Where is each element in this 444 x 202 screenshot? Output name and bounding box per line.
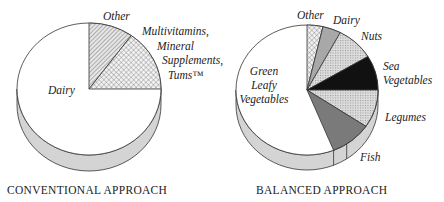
- caption-conventional: CONVENTIONAL APPROACH: [7, 184, 167, 196]
- label-other: Other: [103, 10, 130, 22]
- label-fish: Fish: [359, 151, 381, 163]
- label-leafy: Leafy: [250, 79, 277, 92]
- label-legumes: Legumes: [384, 111, 426, 124]
- label-dairy: Dairy: [47, 84, 76, 97]
- label-sea-vegetables: Vegetables: [383, 74, 433, 87]
- label-multivitamins: Multivitamins,: [141, 25, 209, 38]
- caption-balanced: BALANCED APPROACH: [256, 184, 387, 196]
- pie-conventional: [17, 23, 161, 171]
- label-green-vegetables: Vegetables: [239, 93, 289, 106]
- label-sea: Sea: [383, 60, 400, 72]
- label-tums: Tums™: [168, 69, 204, 81]
- label-mineral: Mineral: [156, 40, 194, 52]
- label-green: Green: [250, 65, 279, 77]
- label-other: Other: [297, 9, 324, 21]
- label-supplements: Supplements,: [162, 54, 223, 67]
- chart-canvas: Other Multivitamins, Mineral Supplements…: [0, 0, 444, 202]
- label-dairy: Dairy: [332, 14, 361, 27]
- label-nuts: Nuts: [360, 30, 383, 42]
